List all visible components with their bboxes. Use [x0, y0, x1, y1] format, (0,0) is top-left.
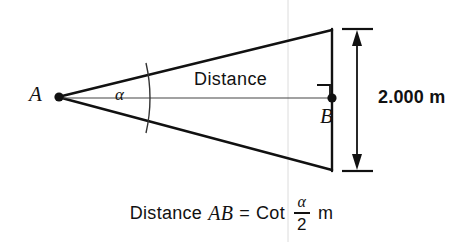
dimension-value-label: 2.000 m [378, 88, 445, 106]
triangle-lower-edge [58, 97, 332, 170]
caption-formula: Distance AB = Cot α 2 m [0, 194, 463, 233]
vertex-label-b: B [320, 106, 333, 127]
formula-fraction-denominator: 2 [294, 214, 310, 233]
arrowhead-up-icon [352, 30, 362, 46]
distance-measurement-diagram: A B α Distance 2.000 m Distance AB = Cot… [0, 0, 463, 242]
formula-segment-ab: AB [208, 202, 233, 225]
formula-equals: = [239, 203, 250, 224]
arrowhead-down-icon [352, 154, 362, 170]
formula-unit: m [318, 203, 333, 224]
formula-word-distance: Distance [130, 203, 202, 224]
formula-row: Distance AB = Cot α 2 m [130, 194, 334, 233]
formula-function-cot: Cot [256, 203, 285, 224]
vertex-dot-a [54, 92, 63, 101]
angle-label-alpha: α [115, 86, 124, 103]
vertex-dot-b [327, 93, 336, 102]
formula-fraction: α 2 [294, 194, 310, 233]
vertex-label-a: A [29, 84, 42, 105]
formula-fraction-numerator: α [295, 194, 310, 212]
distance-label: Distance [194, 70, 267, 88]
